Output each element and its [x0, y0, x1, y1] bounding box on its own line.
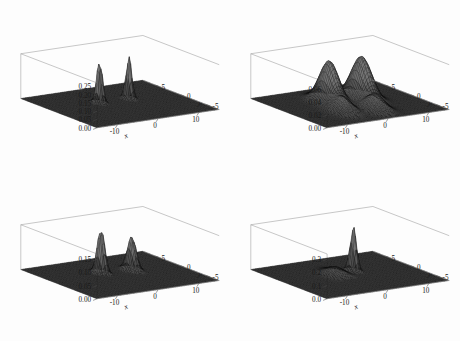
x-tick-label: 10	[422, 116, 430, 124]
x-axis-title: x	[122, 130, 130, 140]
x-tick-label: 0	[153, 293, 157, 301]
z-tick-label: 0.15	[79, 256, 92, 264]
surface-plot-top-right: 0.000.020.040.06-10010x50-5y	[230, 0, 460, 170]
z-tick-label: 0.10	[79, 269, 92, 277]
y-tick-label: 5	[162, 84, 166, 92]
z-tick-label: 0.04	[309, 99, 322, 107]
surface-mesh	[251, 227, 449, 298]
x-tick-label: 10	[192, 116, 200, 124]
y-tick-label: 0	[417, 93, 421, 101]
z-tick-label: 0.05	[79, 283, 92, 291]
z-tick-label: 0.05	[79, 116, 92, 124]
x-axis-title: x	[352, 301, 360, 311]
surface-plot-top-left: 0.000.050.100.150.200.25-10010x50-5y	[0, 0, 230, 170]
y-tick-label: -5	[212, 103, 218, 111]
z-tick-label: 0.0	[312, 296, 321, 304]
y-tick-label: 0	[417, 264, 421, 272]
z-tick-label: 0.1	[312, 283, 321, 291]
z-tick-label: 0.00	[79, 296, 92, 304]
z-tick-label: 0.06	[309, 86, 322, 94]
x-tick-label: 10	[422, 287, 430, 295]
y-tick-label: 5	[392, 255, 396, 263]
x-tick-label: 10	[192, 287, 200, 295]
y-tick-label: 0	[187, 264, 191, 272]
figure-panel-grid: 0.000.050.100.150.200.25-10010x50-5y 0.0…	[0, 0, 460, 341]
z-tick-label: 0.00	[79, 125, 92, 133]
x-tick-label: 0	[383, 293, 387, 301]
x-tick-label: -10	[110, 128, 120, 136]
z-tick-label: 0.15	[79, 100, 92, 108]
surface-mesh	[251, 56, 449, 127]
surface-mesh	[21, 57, 219, 128]
x-axis-title: x	[352, 130, 360, 140]
x-tick-label: 0	[383, 122, 387, 130]
y-tick-label: -5	[212, 274, 218, 282]
z-tick-label: 0.20	[79, 92, 92, 100]
x-tick-label: -10	[340, 128, 350, 136]
surface-plot-bottom-right: 0.00.10.20.3-10010x50-5y	[230, 171, 460, 341]
z-tick-label: 0.00	[309, 125, 322, 133]
z-tick-label: 0.02	[309, 112, 322, 120]
x-tick-label: 0	[153, 122, 157, 130]
x-tick-label: -10	[340, 299, 350, 307]
surface-plot-bottom-left: 0.000.050.100.15-10010x50-5y	[0, 171, 230, 341]
z-tick-label: 0.3	[312, 256, 321, 264]
z-tick-label: 0.25	[79, 83, 92, 91]
y-tick-label: -5	[442, 274, 448, 282]
x-axis-title: x	[122, 301, 130, 311]
z-tick-label: 0.10	[79, 108, 92, 116]
y-tick-label: 0	[187, 93, 191, 101]
y-tick-label: 5	[162, 255, 166, 263]
z-tick-label: 0.2	[312, 269, 321, 277]
x-tick-label: -10	[110, 299, 120, 307]
y-tick-label: -5	[442, 103, 448, 111]
y-tick-label: 5	[392, 84, 396, 92]
